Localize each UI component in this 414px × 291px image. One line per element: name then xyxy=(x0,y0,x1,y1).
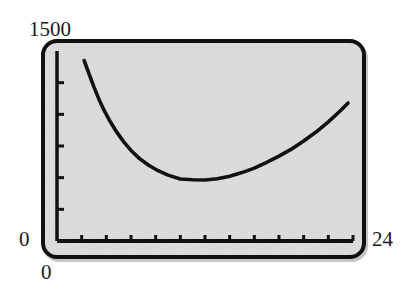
curve-trace xyxy=(84,61,348,180)
calculator-screenshot: 1500 0 0 24 xyxy=(0,0,414,291)
plot-area xyxy=(45,43,362,255)
curve-polyline xyxy=(84,61,348,180)
axes xyxy=(57,51,353,241)
calculator-screen xyxy=(41,39,366,259)
x-axis-max-label: 24 xyxy=(372,229,393,250)
y-axis-min-label: 0 xyxy=(19,229,30,250)
y-axis-max-label: 1500 xyxy=(29,19,71,40)
x-axis-min-label: 0 xyxy=(41,262,52,283)
